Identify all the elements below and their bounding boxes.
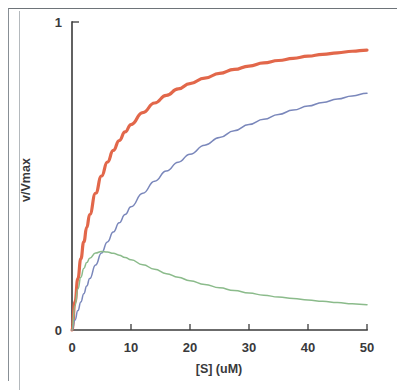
- x-axis-tick-label-20: 20: [183, 340, 197, 355]
- x-axis-tick-label-50: 50: [360, 340, 374, 355]
- x-axis-tick-labels: 01020304050: [68, 340, 374, 355]
- y-axis-tick-label-0: 0: [55, 323, 62, 338]
- axis-lines: [72, 22, 367, 330]
- chart-series-group: [72, 50, 367, 330]
- x-axis-tick-label-30: 30: [242, 340, 256, 355]
- y-axis-title: v/Vmax: [19, 158, 33, 202]
- series-line-competitive-inhibited: [72, 93, 367, 330]
- x-axis-ticks: [72, 324, 367, 330]
- series-line-substrate-inhibited: [72, 251, 367, 330]
- x-axis-tick-label-10: 10: [124, 340, 138, 355]
- x-axis-tick-label-40: 40: [301, 340, 315, 355]
- y-axis-tick-label-1: 1: [55, 15, 62, 30]
- x-axis-title: [S] (uM): [196, 362, 243, 376]
- chart-axes: [72, 22, 367, 330]
- x-axis-tick-label-0: 0: [68, 340, 75, 355]
